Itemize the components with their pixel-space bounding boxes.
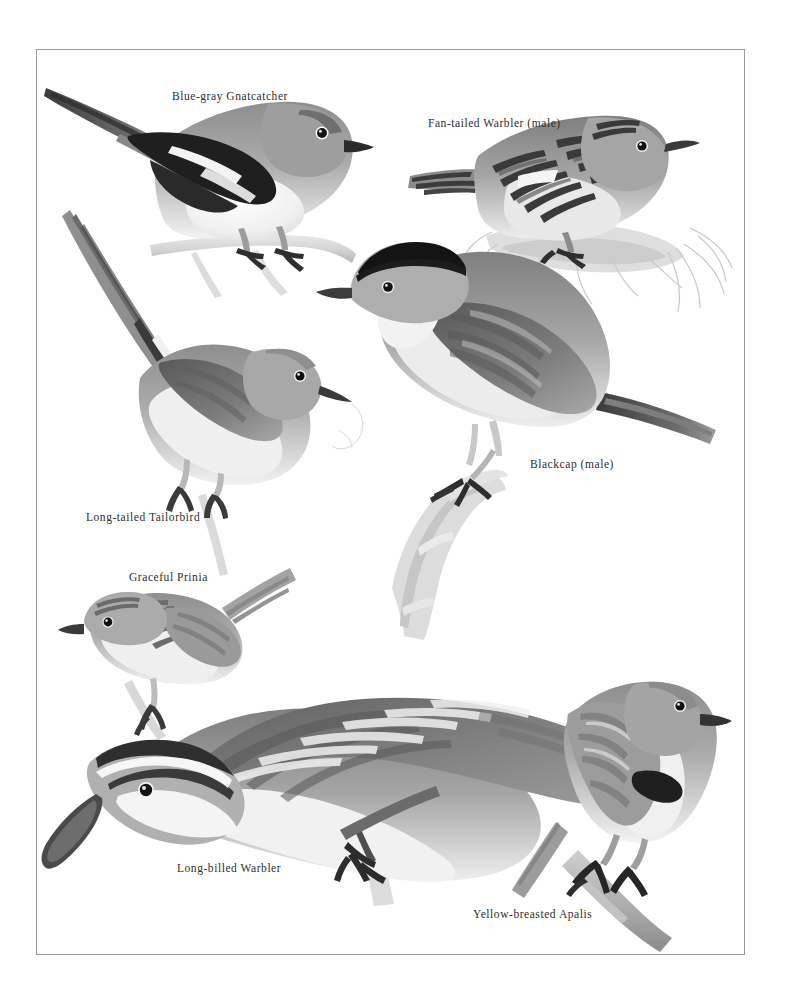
- plate-border-frame: [36, 49, 745, 955]
- caption-yellow-breasted-apalis: Yellow-breasted Apalis: [473, 908, 592, 920]
- caption-long-billed-warbler: Long-billed Warbler: [177, 862, 281, 874]
- illustration-plate-page: Blue-gray Gnatcatcher Fan-tailed Warbler…: [0, 0, 787, 1003]
- caption-long-tailed-tailorbird: Long-tailed Tailorbird: [86, 511, 200, 523]
- caption-blue-gray-gnatcatcher: Blue-gray Gnatcatcher: [172, 90, 288, 102]
- caption-fan-tailed-warbler: Fan-tailed Warbler (male): [428, 117, 561, 129]
- caption-graceful-prinia: Graceful Prinia: [129, 571, 208, 583]
- caption-blackcap: Blackcap (male): [530, 458, 614, 470]
